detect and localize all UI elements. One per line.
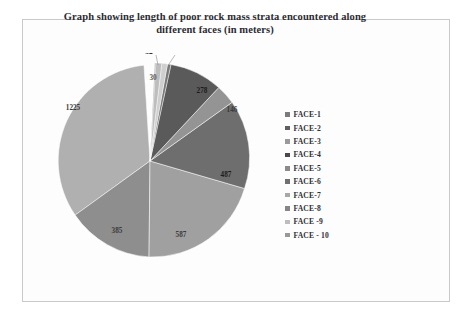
legend-swatch-icon [285, 153, 290, 158]
pie-label-278: 278 [197, 87, 208, 95]
legend-item-label: FACE-7 [294, 191, 321, 200]
legend-item-face-1[interactable]: FACE-1 [285, 108, 395, 121]
pie-label-18: 18 [174, 53, 182, 55]
pie-chart: 32 18 30 278 146 487 587 385 1225 [30, 53, 270, 268]
legend-swatch-icon [285, 233, 290, 238]
legend-item-label: FACE-1 [294, 110, 321, 119]
legend-swatch-icon [285, 206, 290, 211]
legend-item-face-10[interactable]: FACE - 10 [285, 229, 395, 242]
legend-item-label: FACE-4 [294, 150, 321, 159]
pie-chart-svg: 32 18 30 278 146 487 587 385 1225 [30, 53, 270, 268]
pie-label-32: 32 [145, 53, 153, 56]
legend-item-label: FACE-8 [294, 204, 321, 213]
legend-swatch-icon [285, 179, 290, 184]
pie-label-30: 30 [149, 74, 157, 82]
leader-line-18 [169, 55, 175, 64]
legend-swatch-icon [285, 166, 290, 171]
legend-swatch-icon [285, 193, 290, 198]
pie-slices [52, 62, 251, 262]
pie-label-385: 385 [112, 227, 123, 235]
legend-item-face-3[interactable]: FACE-3 [285, 135, 395, 148]
legend-item-label: FACE-5 [294, 164, 321, 173]
legend-item-face-5[interactable]: FACE-5 [285, 162, 395, 175]
chart-legend: FACE-1 FACE-2 FACE-3 FACE-4 FACE-5 FACE-… [285, 108, 395, 242]
pie-label-146: 146 [227, 106, 238, 114]
legend-item-face-7[interactable]: FACE-7 [285, 188, 395, 201]
legend-item-label: FACE-6 [294, 177, 321, 186]
legend-item-label: FACE-3 [294, 137, 321, 146]
legend-item-label: FACE -9 [294, 217, 323, 226]
legend-swatch-icon [285, 220, 290, 225]
legend-item-face-4[interactable]: FACE-4 [285, 148, 395, 161]
legend-swatch-icon [285, 139, 290, 144]
legend-item-label: FACE - 10 [294, 231, 329, 240]
pie-label-587: 587 [176, 231, 187, 239]
chart-plot-area: 32 18 30 278 146 487 587 385 1225 FACE-1… [0, 0, 428, 283]
legend-item-face-2[interactable]: FACE-2 [285, 121, 395, 134]
pie-label-487: 487 [221, 171, 232, 179]
legend-item-face-6[interactable]: FACE-6 [285, 175, 395, 188]
legend-item-face-8[interactable]: FACE-8 [285, 202, 395, 215]
legend-swatch-icon [285, 112, 290, 117]
legend-item-label: FACE-2 [294, 124, 321, 133]
legend-item-face-9[interactable]: FACE -9 [285, 215, 395, 228]
pie-label-1225: 1225 [66, 104, 81, 112]
legend-swatch-icon [285, 126, 290, 131]
